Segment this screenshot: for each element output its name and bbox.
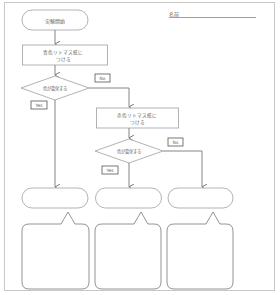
process-blue-litmus: 青色リトマス紙に つける — [23, 45, 108, 65]
yes-badge: Yes — [31, 101, 47, 109]
name-label: 名前 — [169, 11, 179, 18]
process-red-litmus: 赤色リトマス紙に つける — [97, 108, 179, 128]
no-badge: No — [168, 138, 183, 146]
start-label: 実験開始 — [45, 18, 65, 25]
no-label: No — [173, 140, 179, 145]
yes-label: Yes — [105, 168, 114, 173]
process2-line1: 赤色リトマス紙に — [117, 112, 157, 119]
result-terminal-3[interactable] — [168, 188, 233, 208]
decision1-label: 色が変化する — [43, 85, 67, 92]
yes-label: Yes — [34, 103, 43, 108]
decision2-label: 色が変化する — [117, 148, 141, 155]
flowchart-worksheet: 名前 実験開始 青色リトマス紙に つける 色が変化する No Yes 赤色リトマ… — [0, 0, 280, 295]
answer-bubble-2[interactable] — [95, 212, 161, 289]
no-badge: No — [95, 74, 110, 82]
no-label: No — [100, 76, 106, 81]
process1-line1: 青色リトマス紙に — [43, 49, 83, 56]
result-terminal-1[interactable] — [22, 188, 88, 208]
yes-badge: Yes — [102, 166, 118, 174]
answer-bubble-3[interactable] — [167, 212, 233, 289]
result-terminal-2[interactable] — [96, 188, 162, 208]
answer-bubble-1[interactable] — [22, 212, 89, 289]
start-terminal: 実験開始 — [22, 10, 88, 30]
